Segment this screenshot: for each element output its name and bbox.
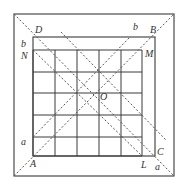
dashed-line-a-b xyxy=(33,37,130,137)
label-l: L xyxy=(140,159,147,170)
label-b-left: b xyxy=(21,38,26,49)
label-b-top: b xyxy=(133,21,138,32)
dashed-lines xyxy=(14,14,174,176)
label-o: O xyxy=(100,91,107,102)
label-a: A xyxy=(29,158,37,169)
label-d: D xyxy=(34,24,43,35)
label-c: C xyxy=(157,146,164,157)
dashed-line-n-l xyxy=(33,50,142,156)
label-a-left: a xyxy=(21,136,26,147)
geometry-figure: D b N b B M O a A C L a xyxy=(0,0,189,196)
diagram-canvas: D b N b B M O a A C L a xyxy=(0,0,189,196)
label-m: M xyxy=(144,48,154,59)
label-b: B xyxy=(150,24,156,35)
label-a-bottom: a xyxy=(155,161,160,172)
label-n: N xyxy=(20,50,29,61)
